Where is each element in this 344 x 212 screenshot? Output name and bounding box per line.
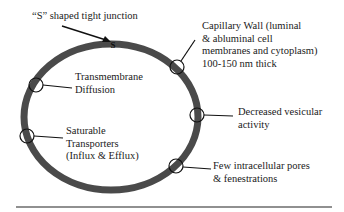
tight-junction-arrow [62,26,111,42]
label-line: Decreased vesicular [238,106,322,119]
capillary-wall-ring [24,44,198,190]
label-line: activity [238,119,322,132]
label-capillary-wall: Capillary Wall (luminal & abluminal cell… [202,20,317,70]
s-junction-glyph: S [110,40,115,50]
label-transporters: Saturable Transporters (Influx & Efflux) [66,125,139,163]
label-line: & fenestrations [213,173,310,186]
label-pores: Few intracellular pores & fenestrations [213,160,310,185]
label-transmembrane: Transmembrane Diffusion [75,71,143,96]
label-line: Transporters [66,138,139,151]
label-line: Saturable [66,125,139,138]
label-line: Few intracellular pores [213,160,310,173]
label-line: Capillary Wall (luminal [202,20,317,33]
label-line: membranes and cytoplasm) [202,45,317,58]
label-line: (Influx & Efflux) [66,150,139,163]
label-line: Transmembrane [75,71,143,84]
label-line: 100-150 nm thick [202,58,317,71]
label-tight-junction: “S” shaped tight junction [32,10,138,23]
label-line: & abluminal cell [202,33,317,46]
label-line: Diffusion [75,84,143,97]
label-line: “S” shaped tight junction [32,10,138,23]
label-vesicular: Decreased vesicular activity [238,106,322,131]
